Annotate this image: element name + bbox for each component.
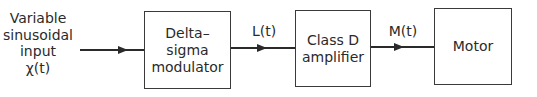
input-signal-label: Variable sinusoidal input χ(t) xyxy=(0,10,76,76)
motor-block: Motor xyxy=(434,8,512,85)
signal-label-m-t: M(t) xyxy=(381,23,425,39)
motor-label: Motor xyxy=(453,38,493,55)
signal-label-l-t: L(t) xyxy=(244,23,284,39)
delta-sigma-modulator-block: Delta– sigma modulator xyxy=(144,11,231,89)
delta-sigma-modulator-label: Delta– sigma modulator xyxy=(151,25,223,76)
class-d-amplifier-label: Class D amplifier xyxy=(302,32,364,66)
class-d-amplifier-block: Class D amplifier xyxy=(295,10,371,87)
